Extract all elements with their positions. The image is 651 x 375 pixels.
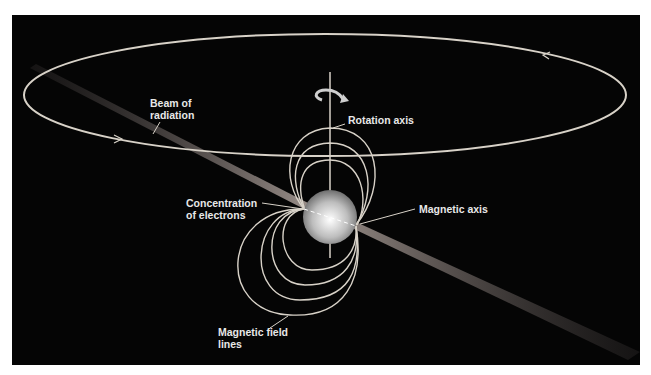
- label-line: Concentration: [186, 197, 257, 209]
- label-line: Beam of: [150, 97, 194, 109]
- leader-magnetic-axis: [360, 209, 415, 224]
- neutron-star: [303, 190, 357, 244]
- label-beam-of-radiation: Beam of radiation: [150, 97, 194, 121]
- beam-sweep-ellipse: [24, 34, 626, 156]
- label-magnetic-field-lines: Magnetic field lines: [218, 326, 288, 350]
- label-line: lines: [218, 338, 288, 350]
- label-concentration-of-electrons: Concentration of electrons: [186, 197, 257, 221]
- radiation-beam-lower: [352, 222, 640, 360]
- label-line: radiation: [150, 109, 194, 121]
- leader-rotation: [333, 124, 345, 128]
- label-line: Magnetic field: [218, 326, 288, 338]
- pulsar-diagram: [0, 0, 651, 375]
- rotation-arrow-icon: [316, 90, 349, 103]
- radiation-beam-upper: [30, 64, 312, 210]
- label-rotation-axis: Rotation axis: [348, 114, 414, 126]
- label-line: of electrons: [186, 209, 257, 221]
- label-magnetic-axis: Magnetic axis: [419, 203, 488, 215]
